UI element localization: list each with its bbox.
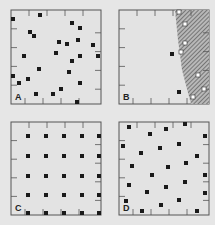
data-point <box>177 142 181 146</box>
data-point <box>62 154 66 158</box>
data-point <box>44 134 48 138</box>
open-data-point <box>177 10 181 14</box>
data-point <box>38 13 42 17</box>
data-point <box>166 165 170 169</box>
open-data-point <box>183 41 187 45</box>
point-pattern-diagram: ABCD <box>0 0 215 225</box>
panel-label: D <box>123 203 130 213</box>
data-point <box>70 59 74 63</box>
data-point <box>70 21 74 25</box>
data-point <box>80 134 84 138</box>
data-point <box>57 40 61 44</box>
open-data-point <box>202 87 206 91</box>
data-point <box>97 211 101 215</box>
data-point <box>148 132 152 136</box>
data-point <box>26 193 30 197</box>
data-point <box>97 193 101 197</box>
data-point <box>203 134 207 138</box>
data-point <box>195 154 199 158</box>
data-point <box>37 67 41 71</box>
data-point <box>78 26 82 30</box>
data-point <box>67 70 71 74</box>
data-point <box>80 211 84 215</box>
data-point <box>44 174 48 178</box>
data-point <box>26 77 30 81</box>
panel-label: C <box>15 203 22 213</box>
data-point <box>34 92 38 96</box>
panel-c: C <box>11 122 101 215</box>
data-point <box>127 183 131 187</box>
data-point <box>130 164 134 168</box>
open-data-point <box>179 50 183 54</box>
data-point <box>170 52 174 56</box>
open-data-point <box>191 95 195 99</box>
data-point <box>177 90 181 94</box>
panel-label: B <box>123 92 130 102</box>
data-point <box>32 34 36 38</box>
data-point <box>54 51 58 55</box>
data-point <box>183 180 187 184</box>
data-point <box>11 74 15 78</box>
data-point <box>80 174 84 178</box>
data-point <box>150 173 154 177</box>
data-point <box>26 134 30 138</box>
data-point <box>44 154 48 158</box>
open-data-point <box>196 73 200 77</box>
data-point <box>145 190 149 194</box>
data-point <box>78 81 82 85</box>
data-point <box>159 203 163 207</box>
data-point <box>121 144 125 148</box>
data-point <box>97 154 101 158</box>
data-point <box>62 193 66 197</box>
data-point <box>203 173 207 177</box>
data-point <box>78 54 82 58</box>
data-point <box>97 134 101 138</box>
data-point <box>203 191 207 195</box>
data-point <box>91 43 95 47</box>
data-point <box>139 151 143 155</box>
data-point <box>96 54 100 58</box>
data-point <box>44 193 48 197</box>
data-point <box>164 185 168 189</box>
data-point <box>11 17 15 21</box>
data-point <box>62 211 66 215</box>
panel-a: A <box>11 10 101 104</box>
data-point <box>127 125 131 129</box>
data-point <box>26 154 30 158</box>
data-point <box>97 174 101 178</box>
data-point <box>26 211 30 215</box>
data-point <box>158 146 162 150</box>
data-point <box>80 154 84 158</box>
data-point <box>195 209 199 213</box>
data-point <box>62 134 66 138</box>
data-point <box>65 42 69 46</box>
panel-b: B <box>119 10 209 104</box>
open-data-point <box>183 22 187 26</box>
data-point <box>22 54 26 58</box>
data-point <box>75 100 79 104</box>
data-point <box>51 92 55 96</box>
data-point <box>28 30 32 34</box>
data-point <box>80 193 84 197</box>
data-point <box>17 81 21 85</box>
panel-d: D <box>119 122 209 215</box>
data-point <box>59 87 63 91</box>
data-point <box>26 174 30 178</box>
data-point <box>184 161 188 165</box>
data-point <box>177 198 181 202</box>
data-point <box>44 211 48 215</box>
data-point <box>76 38 80 42</box>
data-point <box>140 209 144 213</box>
data-point <box>62 174 66 178</box>
data-point <box>164 127 168 131</box>
panel-label: A <box>15 92 22 102</box>
data-point <box>183 122 187 126</box>
